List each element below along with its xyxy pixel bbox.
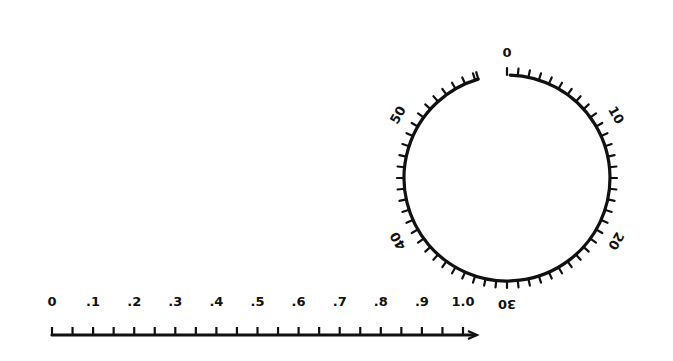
- dial-tick: [518, 280, 519, 287]
- number-line-label: 0: [47, 294, 56, 309]
- dial-tick: [496, 280, 497, 287]
- dial-label-30: 30: [498, 297, 516, 312]
- dial-tick: [412, 230, 418, 234]
- dial-tick: [549, 272, 552, 278]
- number-line-label: .2: [127, 294, 141, 309]
- dial-tick: [399, 155, 406, 156]
- dial-tick: [596, 123, 602, 127]
- dial-ticks: [397, 68, 617, 288]
- dial-tick: [559, 267, 563, 273]
- dial-tick: [584, 104, 589, 109]
- dial-arc: [404, 75, 610, 281]
- dial-tick: [608, 199, 615, 200]
- dial-tick: [452, 267, 456, 273]
- dial-label-0: 0: [502, 45, 511, 60]
- dial-tick: [568, 89, 572, 95]
- dial-tick: [609, 167, 616, 168]
- dial-tick: [462, 272, 465, 278]
- dial-tick: [559, 83, 563, 89]
- dial-tick: [518, 69, 519, 76]
- dial-tick: [425, 247, 430, 252]
- dial-tick: [412, 123, 418, 127]
- dial-tick: [601, 133, 607, 136]
- number-line-label: .3: [168, 294, 182, 309]
- dial-label-40: 40: [387, 229, 409, 252]
- dial-labels: 01020304050: [387, 45, 627, 312]
- dial-tick: [484, 279, 485, 286]
- number-line-label: 1.0: [451, 294, 474, 309]
- dial-label-20: 20: [605, 229, 627, 252]
- number-line-label: .4: [209, 294, 223, 309]
- number-line: [52, 331, 477, 339]
- circular-dial: [404, 75, 610, 281]
- dial-tick: [576, 96, 581, 101]
- dial-tick: [549, 78, 552, 84]
- dial-tick: [407, 220, 413, 223]
- dial-tick: [442, 261, 446, 267]
- dial-tick: [608, 155, 615, 156]
- dial-tick: [433, 255, 438, 260]
- dial-tick: [418, 113, 424, 117]
- number-line-label: .5: [251, 294, 265, 309]
- dial-tick: [433, 96, 438, 101]
- number-line-label: .1: [86, 294, 100, 309]
- dial-tick: [568, 261, 572, 267]
- dial-tick: [462, 78, 465, 84]
- diagram-canvas: 01020304050 0.1.2.3.4.5.6.7.8.91.0: [0, 0, 673, 361]
- dial-tick: [576, 255, 581, 260]
- dial-tick: [418, 239, 424, 243]
- dial-tick: [528, 279, 529, 286]
- dial-tick: [596, 230, 602, 234]
- dial-tick: [398, 167, 405, 168]
- dial-tick: [528, 70, 529, 77]
- dial-tick: [399, 199, 406, 200]
- number-line-label: .9: [415, 294, 429, 309]
- dial-tick: [425, 104, 430, 109]
- dial-tick: [590, 239, 596, 243]
- number-line-label: .6: [292, 294, 306, 309]
- dial-tick: [407, 133, 413, 136]
- dial-label-10: 10: [605, 103, 627, 126]
- dial-tick: [442, 89, 446, 95]
- number-line-label: .8: [374, 294, 388, 309]
- dial-tick: [452, 83, 456, 89]
- number-line-label: .7: [333, 294, 347, 309]
- number-line-ticks: [52, 327, 463, 335]
- number-line-labels: 0.1.2.3.4.5.6.7.8.91.0: [47, 294, 474, 309]
- dial-tick: [601, 220, 607, 223]
- dial-tick: [398, 189, 405, 190]
- dial-label-50: 50: [387, 103, 409, 126]
- dial-tick: [609, 189, 616, 190]
- dial-tick: [590, 113, 596, 117]
- dial-tick: [584, 247, 589, 252]
- dial-tick: [476, 71, 478, 79]
